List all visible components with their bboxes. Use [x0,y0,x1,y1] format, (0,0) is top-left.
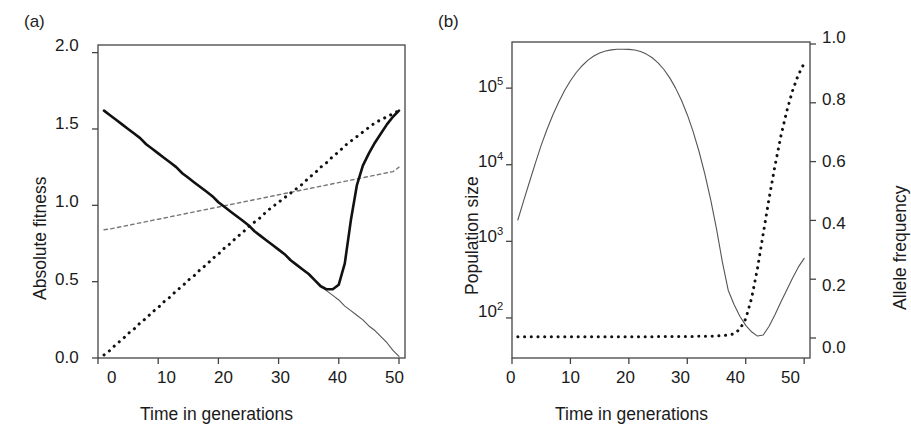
panel-b-series-1 [518,63,804,337]
panel-b-series-0 [518,49,804,336]
panel-b: (b) Population size Allele frequency Tim… [430,0,911,446]
panel-b-plot-frame [512,42,810,358]
panel-a: (a) Absolute fitness Time in generations… [0,0,455,446]
panel-a-series-1 [104,111,399,357]
panel-a-plot-frame [98,45,405,358]
panel-a-plot-area [0,0,455,446]
panel-b-plot-area [430,0,911,446]
